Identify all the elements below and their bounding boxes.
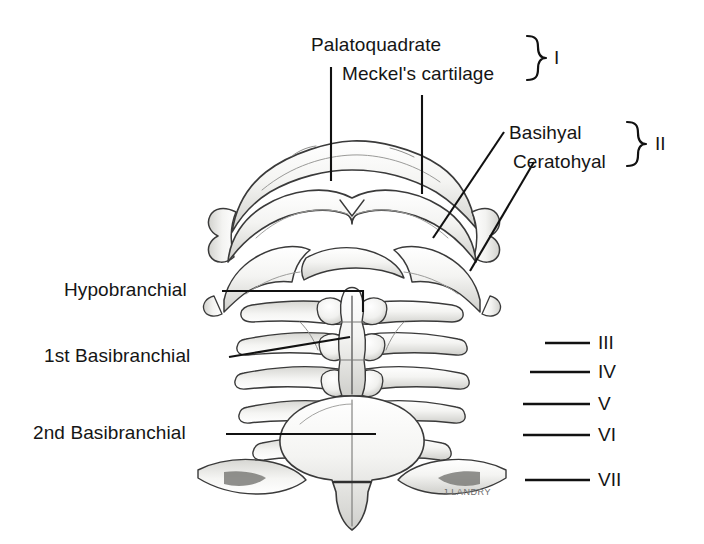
brace-numeral-arch-2: II <box>655 134 666 154</box>
arch-numeral-5: V <box>598 394 611 414</box>
arch-numeral-6: VI <box>598 425 616 445</box>
label-meckels-cartilage: Meckel's cartilage <box>342 63 494 85</box>
label-ceratohyal: Ceratohyal <box>513 151 606 173</box>
arch-numeral-3: III <box>598 333 614 353</box>
anatomy-figure: Palatoquadrate Meckel's cartilage Basihy… <box>0 0 704 544</box>
brace-group <box>527 36 646 166</box>
label-basihyal: Basihyal <box>509 122 582 144</box>
brace-numeral-arch-1: I <box>554 48 559 68</box>
brace-arch-1 <box>527 36 546 80</box>
label-first-basibranchial: 1st Basibranchial <box>44 345 190 367</box>
label-palatoquadrate: Palatoquadrate <box>311 34 441 56</box>
numeral-tick-group <box>523 343 590 480</box>
label-second-basibranchial: 2nd Basibranchial <box>33 422 186 444</box>
hyoid-tip-left <box>203 296 222 316</box>
palatoquadrate-process-right <box>472 209 500 263</box>
hyoid-tip-right <box>482 296 501 316</box>
basihyal <box>302 248 404 280</box>
brace-arch-2 <box>627 122 646 166</box>
label-hypobranchial: Hypobranchial <box>64 279 187 301</box>
arch-numeral-4: IV <box>598 362 616 382</box>
arch-numeral-7: VII <box>598 470 621 490</box>
artist-signature: J LANDRY <box>443 487 491 497</box>
